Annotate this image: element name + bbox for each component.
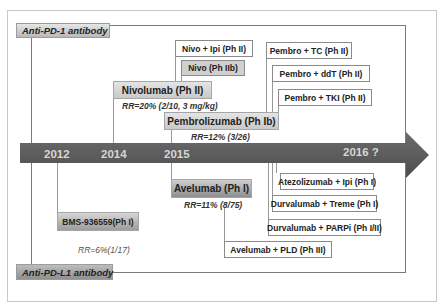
nivo-ipi-stem [175, 57, 176, 81]
durva-treme-box: Durvalumab + Treme (Ph I) [272, 195, 377, 212]
anti-pd1-label: Anti-PD-1 antibody [16, 23, 110, 38]
avelumab-box: Avelumab (Ph I) [171, 179, 252, 198]
pd1-top-line [110, 25, 406, 26]
bms-936559-box: BMS-936559(Ph I) [57, 212, 139, 231]
avelumab-rr: RR=11% (8/75) [184, 200, 242, 210]
pembrolizumab-box: Pembrolizumab (Ph Ib) [164, 112, 279, 130]
bms-936559-rr: RR=6%(1/17) [78, 245, 130, 255]
nivolumab-rr: RR=20% (2/10, 3 mg/kg) [122, 101, 218, 111]
pdl1-bottom-line [113, 272, 406, 273]
avelumab-pld-stem [224, 208, 225, 242]
pembro-ddt-stem [272, 82, 273, 112]
anti-pdl1-label: Anti-PD-L1 antibody [16, 264, 113, 280]
nivo-ipi-box: Nivo + Ipi (Ph II) [175, 40, 253, 57]
year-2014: 2014 [101, 148, 127, 160]
year-2012: 2012 [44, 148, 70, 160]
durva-parpi-box: Durvalumab + PARPi (Ph I/II) [268, 219, 381, 236]
year-2016: 2016 ? [343, 146, 379, 158]
year-2015: 2015 [164, 148, 190, 160]
pd1-left-vertical [31, 38, 32, 143]
avelumab-pld-box: Avelumab + PLD (Ph III) [224, 241, 332, 258]
pembro-tc-stem [266, 59, 267, 112]
pd1-right-bracket [405, 25, 406, 145]
pembrolizumab-rr: RR=12% (3/26) [191, 132, 250, 142]
nivo-iib-box: Nivo (Ph IIb) [181, 60, 245, 76]
pembro-ddt-box: Pembro + ddT (Ph II) [272, 65, 370, 82]
nivolumab-box: Nivolumab (Ph II) [113, 81, 212, 99]
atezo-ipi-box: Atezolizumab + Ipi (Ph I) [280, 173, 374, 190]
pembro-tki-box: Pembro + TKI (Ph II) [278, 89, 372, 106]
pembro-tc-box: Pembro + TC (Ph II) [266, 42, 352, 59]
